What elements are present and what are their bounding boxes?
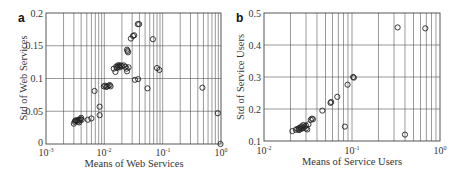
y-axis-label: Std of Service Users	[235, 34, 246, 120]
data-point	[200, 85, 205, 90]
x-axis-label: Means of Service Users	[302, 156, 402, 167]
x-tick: 100	[215, 147, 228, 158]
x-tick: 10-3	[39, 147, 54, 158]
data-point	[145, 86, 150, 91]
y-tick: 0.1	[31, 73, 44, 84]
x-tick-labels: 10-3 10-2 10-1 100	[39, 147, 228, 158]
data-point	[136, 77, 141, 82]
x-tick: 10-2	[257, 145, 272, 156]
panel-a-web-services: a 0.2 0.15 0.1 0.05 0 10-3 10-2 10-1 100…	[18, 8, 228, 169]
data-points	[290, 25, 428, 137]
data-point	[335, 94, 340, 99]
x-tick: 100	[434, 145, 447, 156]
y-tick: 0.5	[249, 8, 262, 19]
data-point	[92, 88, 97, 93]
y-tick: 0.4	[249, 40, 262, 51]
panel-label-a: a	[18, 11, 25, 25]
grid-lines	[264, 13, 440, 141]
panel-b-service-users: b 0.5 0.4 0.3 0.2 0.1 10-2 10-1 100 Mean…	[235, 8, 447, 167]
y-tick-labels: 0.5 0.4 0.3 0.2 0.1	[249, 8, 262, 147]
data-point	[423, 26, 428, 31]
y-tick: 0.2	[249, 104, 262, 115]
y-tick: 0.2	[31, 8, 44, 19]
x-tick: 10-2	[97, 147, 112, 158]
data-points	[71, 22, 223, 147]
x-tick: 10-1	[345, 145, 360, 156]
figure: a 0.2 0.15 0.1 0.05 0 10-3 10-2 10-1 100…	[0, 0, 461, 173]
x-axis-label: Means of Web Services	[85, 158, 184, 169]
x-tick: 10-1	[156, 147, 171, 158]
y-axis-label: Std of Web Services	[18, 36, 29, 121]
data-point	[345, 82, 350, 87]
panel-label-b: b	[236, 11, 243, 25]
data-point	[150, 37, 155, 42]
y-tick: 0.3	[249, 72, 262, 83]
x-tick-labels: 10-2 10-1 100	[257, 145, 447, 156]
data-point	[342, 124, 347, 129]
data-point	[395, 25, 400, 30]
